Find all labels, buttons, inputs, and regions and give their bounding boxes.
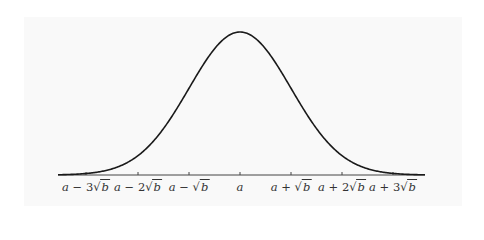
tick-label: a − 3√b: [62, 179, 110, 195]
tick-label: a − 2√b: [114, 179, 162, 195]
tick-label: a + √b: [271, 179, 312, 195]
tick-label: a − √b: [169, 179, 210, 195]
normal-curve: [58, 32, 425, 175]
tick-label: a + 3√b: [369, 179, 417, 195]
tick-label: a + 2√b: [318, 179, 366, 195]
tick-label: a: [237, 179, 244, 195]
